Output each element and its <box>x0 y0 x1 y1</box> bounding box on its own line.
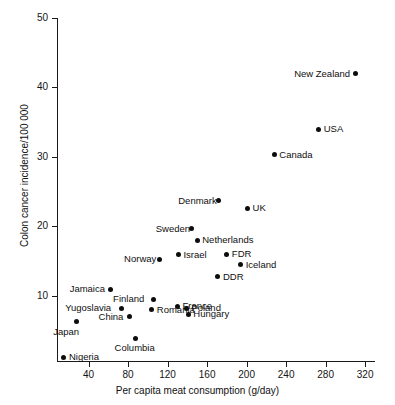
x-tick-label: 80 <box>113 370 143 380</box>
data-point-label: Jamaica <box>70 284 105 294</box>
data-point-label: China <box>99 312 124 322</box>
data-point-label: Hungary <box>193 309 229 319</box>
y-tick-mark <box>52 296 57 297</box>
data-point-label: Sweden <box>156 224 190 234</box>
data-point <box>74 319 79 324</box>
data-point <box>133 336 138 341</box>
y-tick-label: 10 <box>26 291 48 301</box>
data-point <box>149 307 154 312</box>
y-tick-mark <box>52 157 57 158</box>
y-tick-mark <box>52 226 57 227</box>
data-point <box>238 262 243 267</box>
data-point <box>353 71 358 76</box>
data-point <box>127 314 132 319</box>
data-point <box>186 312 191 317</box>
data-point <box>151 297 156 302</box>
data-point <box>216 198 221 203</box>
data-point-label: Israel <box>183 250 206 260</box>
data-point-label: New Zealand <box>294 69 350 79</box>
x-tick-mark <box>168 362 169 367</box>
data-point-label: Iceland <box>246 260 277 270</box>
y-axis-line <box>57 18 58 362</box>
data-point-label: Columbia <box>115 343 155 353</box>
data-point-label: Japan <box>53 327 79 337</box>
data-point-label: Canada <box>279 150 312 160</box>
x-tick-mark <box>247 362 248 367</box>
data-point <box>224 252 229 257</box>
x-axis-title: Per capita meat consumption (g/day) <box>0 385 395 396</box>
data-point <box>108 287 113 292</box>
data-point <box>157 257 162 262</box>
data-point <box>195 238 200 243</box>
data-point-label: USA <box>324 124 344 134</box>
x-tick-mark <box>207 362 208 367</box>
x-tick-label: 280 <box>311 370 341 380</box>
x-tick-label: 160 <box>192 370 222 380</box>
data-point-label: FDR <box>232 249 252 259</box>
x-tick-label: 40 <box>74 370 104 380</box>
plot-area: 1020304050 4080120160200240280320 New Ze… <box>57 18 375 362</box>
y-tick-mark <box>52 18 57 19</box>
x-tick-mark <box>128 362 129 367</box>
x-tick-label: 120 <box>153 370 183 380</box>
y-tick-label: 50 <box>26 13 48 23</box>
data-point-label: UK <box>253 203 266 213</box>
data-point <box>176 252 181 257</box>
x-tick-mark <box>89 362 90 367</box>
data-point-label: Netherlands <box>202 235 253 245</box>
data-point <box>245 206 250 211</box>
data-point-label: Finland <box>113 294 144 304</box>
y-tick-mark <box>52 87 57 88</box>
y-axis-title: Colon cancer incidence/100 000 <box>19 66 30 286</box>
x-axis-line <box>57 361 375 362</box>
data-point <box>272 152 277 157</box>
data-point-label: Norway <box>124 254 156 264</box>
scatter-chart: 1020304050 4080120160200240280320 New Ze… <box>0 0 395 405</box>
data-point-label: DDR <box>223 272 244 282</box>
data-point <box>316 127 321 132</box>
data-point <box>215 274 220 279</box>
x-tick-label: 320 <box>350 370 380 380</box>
x-tick-label: 240 <box>271 370 301 380</box>
data-point-label: Nigeria <box>69 352 99 362</box>
data-point-label: Denmark <box>178 196 217 206</box>
x-tick-label: 200 <box>232 370 262 380</box>
data-point <box>61 355 66 360</box>
x-tick-mark <box>326 362 327 367</box>
x-tick-mark <box>286 362 287 367</box>
x-tick-mark <box>365 362 366 367</box>
